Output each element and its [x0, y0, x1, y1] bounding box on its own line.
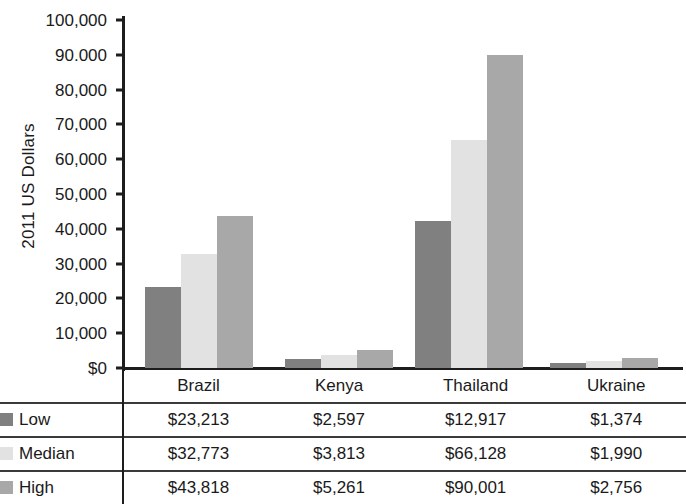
y-axis-tick-label: 80,000 — [55, 81, 107, 98]
plot-region: 2011 US Dollars 100,00090.00080,00070,00… — [0, 0, 686, 392]
bar-group-brazil — [145, 20, 253, 368]
bar-thailand-median — [451, 140, 487, 368]
table-column-header-kenya: Kenya — [273, 370, 405, 403]
data-table: BrazilKenyaThailandUkraineLow$23,213$2,5… — [0, 370, 686, 504]
y-axis-tick-label: 90.000 — [55, 46, 107, 63]
table-column-header-brazil: Brazil — [123, 370, 274, 403]
bar-group-thailand — [415, 20, 523, 368]
table-cell: $23,213 — [123, 403, 274, 437]
table-cell: $32,773 — [123, 437, 274, 471]
y-axis-tick-label: 40,000 — [55, 220, 107, 237]
bar-brazil-low — [145, 287, 181, 368]
legend-swatch-high-icon — [0, 481, 13, 494]
table-row: Median$32,773$3,813$66,128$1,990 — [0, 437, 686, 471]
bar-ukraine-high — [622, 358, 658, 368]
table-cell: $1,990 — [546, 437, 686, 471]
bar-kenya-low — [285, 359, 321, 368]
bar-kenya-high — [357, 350, 393, 368]
table-corner-cell — [0, 370, 123, 403]
table-cell: $43,818 — [123, 471, 274, 504]
table-header-row: BrazilKenyaThailandUkraine — [0, 370, 686, 403]
bar-group-kenya — [285, 20, 393, 368]
bar-thailand-high — [487, 55, 523, 368]
bar-thailand-low — [415, 221, 451, 368]
y-axis-tick-labels: 100,00090.00080,00070,00060,00050,00040,… — [0, 0, 116, 392]
table-cell: $90,001 — [405, 471, 547, 504]
legend-swatch-median-icon — [0, 447, 13, 460]
bar-ukraine-low — [550, 363, 586, 368]
bar-brazil-high — [217, 216, 253, 368]
table-cell: $5,261 — [273, 471, 405, 504]
legend-label: Median — [19, 444, 75, 464]
table-cell: $66,128 — [405, 437, 547, 471]
legend-item-median: Median — [0, 437, 123, 471]
legend-item-high: High — [0, 471, 123, 504]
bar-kenya-median — [321, 355, 357, 368]
bar-group-ukraine — [550, 20, 658, 368]
table-row: High$43,818$5,261$90,001$2,756 — [0, 471, 686, 504]
table-cell: $12,917 — [405, 403, 547, 437]
legend-label: High — [19, 478, 54, 498]
legend-swatch-low-icon — [0, 413, 13, 426]
bar-chart-figure: 2011 US Dollars 100,00090.00080,00070,00… — [0, 0, 686, 504]
y-axis-tick-label: 50,000 — [55, 186, 107, 203]
legend-item-low: Low — [0, 403, 123, 437]
y-axis-tick-label: 10,000 — [55, 325, 107, 342]
table-cell: $3,813 — [273, 437, 405, 471]
bar-brazil-median — [181, 254, 217, 368]
bars-layer — [125, 0, 683, 392]
y-axis-tick-label: 100,000 — [46, 12, 107, 29]
table-column-header-thailand: Thailand — [405, 370, 547, 403]
y-axis-tick-label: 30,000 — [55, 255, 107, 272]
y-axis-tick-label: 20,000 — [55, 290, 107, 307]
y-axis-tick-label: 70,000 — [55, 116, 107, 133]
y-axis-tick-label: 60,000 — [55, 151, 107, 168]
table-cell: $2,756 — [546, 471, 686, 504]
legend-label: Low — [19, 410, 50, 430]
table-cell: $2,597 — [273, 403, 405, 437]
table-column-header-ukraine: Ukraine — [546, 370, 686, 403]
table-row: Low$23,213$2,597$12,917$1,374 — [0, 403, 686, 437]
bar-ukraine-median — [586, 361, 622, 368]
table-cell: $1,374 — [546, 403, 686, 437]
